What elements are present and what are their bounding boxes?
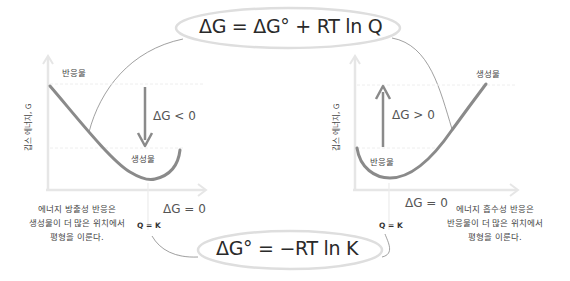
- left-equilibrium-label: ΔG = 0: [163, 202, 206, 216]
- right-caption: 에너지 흡수성 반응은 반응물이 더 많은 위치에서 평형을 이룬다.: [435, 202, 555, 244]
- right-y-axis-label: 깁스 에너지, G: [330, 104, 341, 152]
- left-y-axis-label: 깁스 에너지, G: [22, 104, 33, 152]
- left-caption-line-1: 에너지 방출성 반응은: [22, 202, 132, 216]
- left-caption-line-2: 생성물이 더 많은 위치에서: [22, 216, 132, 230]
- left-product-label: 생성물: [131, 152, 155, 164]
- right-caption-line-2: 반응물이 더 많은 위치에서: [435, 216, 555, 230]
- left-q-equals-k: Q = K: [137, 221, 161, 230]
- left-reactant-label: 반응물: [62, 66, 86, 78]
- q-k-right-connector: [383, 234, 388, 257]
- bottom-left-connector: [152, 236, 198, 257]
- right-product-label: 생성물: [476, 67, 500, 79]
- left-caption: 에너지 방출성 반응은 생성물이 더 많은 위치에서 평형을 이룬다.: [22, 202, 132, 244]
- left-gibbs-curve: [50, 86, 180, 180]
- bottom-equation: ΔG° = −RT ln K: [216, 237, 358, 259]
- top-equation: ΔG = ΔG° + RT ln Q: [199, 15, 382, 37]
- left-delta-label: ΔG < 0: [153, 109, 196, 123]
- right-caption-line-3: 평형을 이룬다.: [435, 230, 555, 244]
- left-caption-line-3: 평형을 이룬다.: [22, 230, 132, 244]
- right-delta-label: ΔG > 0: [392, 108, 435, 122]
- right-q-equals-k: Q = K: [379, 221, 403, 230]
- right-reactant-label: 반응물: [370, 155, 394, 167]
- right-caption-line-1: 에너지 흡수성 반응은: [435, 202, 555, 216]
